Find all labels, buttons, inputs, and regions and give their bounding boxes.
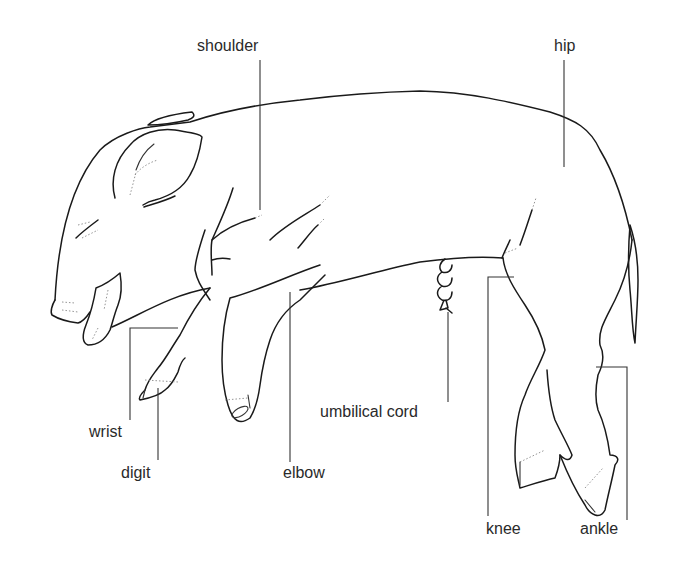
leader-ankle <box>596 367 627 520</box>
label-hip: hip <box>554 38 575 54</box>
leader-knee <box>488 277 514 516</box>
snout <box>51 300 90 323</box>
eye <box>76 220 98 238</box>
piglet-drawing <box>0 0 674 563</box>
tail <box>629 225 639 343</box>
body-outline <box>55 91 632 300</box>
hind-leg-knee <box>503 258 572 488</box>
ear-inner <box>136 144 154 170</box>
label-knee: knee <box>486 521 521 537</box>
jaw <box>83 273 121 345</box>
front-leg-near <box>139 288 210 400</box>
label-umbilical-cord: umbilical cord <box>320 404 418 420</box>
hind-leg-ankle <box>560 240 632 515</box>
label-elbow: elbow <box>283 465 325 481</box>
ear <box>113 130 202 205</box>
belly <box>300 257 503 290</box>
label-shoulder: shoulder <box>197 38 258 54</box>
umbilical-cord-shape <box>438 259 453 313</box>
label-ankle: ankle <box>580 521 618 537</box>
label-digit: digit <box>121 465 150 481</box>
label-wrist: wrist <box>89 424 122 440</box>
